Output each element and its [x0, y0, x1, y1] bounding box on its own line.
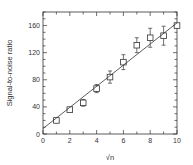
y-axis-label: Signal-to-noise ratio [5, 40, 14, 107]
x-tick-label: 2 [68, 137, 72, 144]
data-point [174, 23, 180, 29]
fit-line [43, 23, 177, 129]
data-point [147, 35, 153, 41]
y-tick-label: 40 [32, 103, 40, 110]
x-tick-label: 0 [41, 137, 45, 144]
data-point [121, 59, 127, 65]
data-point [80, 100, 86, 106]
x-tick-label: 6 [121, 137, 125, 144]
y-tick-label: 0 [36, 131, 40, 138]
data-point [134, 42, 140, 48]
y-tick-label: 120 [28, 49, 40, 56]
plot-area: 024681004080120160 [28, 12, 181, 144]
chart: 024681004080120160 √n Signal-to-noise ra… [0, 0, 193, 165]
x-tick-label: 4 [95, 137, 99, 144]
y-tick-label: 160 [28, 22, 40, 29]
x-axis-label: √n [106, 153, 114, 162]
x-tick-label: 10 [173, 137, 181, 144]
x-tick-label: 8 [148, 137, 152, 144]
y-tick-label: 80 [32, 76, 40, 83]
